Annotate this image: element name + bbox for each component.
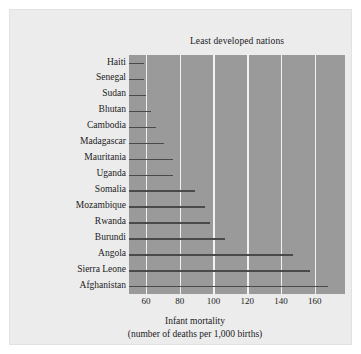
category-label-uganda: Uganda <box>18 168 126 178</box>
bar-uganda <box>129 175 173 176</box>
plot-area <box>129 55 345 294</box>
tick-mark-60 <box>146 288 147 294</box>
bar-senegal <box>129 79 144 80</box>
gridline-80 <box>180 55 181 294</box>
category-axis-labels: HaitiSenegalSudanBhutanCambodiaMadagasca… <box>18 55 126 294</box>
bar-burundi <box>129 238 225 239</box>
figure: Least developed nations HaitiSenegalSuda… <box>0 0 361 354</box>
bar-cambodia <box>129 127 156 128</box>
value-axis-ticks: 6080100120140160 <box>129 294 345 310</box>
category-label-bhutan: Bhutan <box>18 104 126 114</box>
tick-mark-160 <box>315 288 316 294</box>
bar-rwanda <box>129 222 210 223</box>
gridline-120 <box>247 55 248 294</box>
gridline-140 <box>281 55 282 294</box>
value-axis-title-sub: (number of deaths per 1,000 births) <box>70 328 320 341</box>
category-label-sudan: Sudan <box>18 88 126 98</box>
tick-label-80: 80 <box>175 296 184 306</box>
bar-haiti <box>129 63 144 64</box>
gridline-160 <box>315 55 316 294</box>
tick-label-140: 140 <box>274 296 288 306</box>
tick-mark-120 <box>247 288 248 294</box>
bar-mozambique <box>129 206 205 207</box>
tick-label-60: 60 <box>141 296 150 306</box>
bar-sudan <box>129 95 146 96</box>
gridline-100 <box>213 55 214 294</box>
category-label-afghanistan: Afghanistan <box>18 280 126 290</box>
bar-somalia <box>129 190 195 191</box>
tick-label-160: 160 <box>308 296 322 306</box>
category-label-angola: Angola <box>18 248 126 258</box>
category-label-burundi: Burundi <box>18 232 126 242</box>
tick-mark-80 <box>180 288 181 294</box>
category-label-senegal: Senegal <box>18 72 126 82</box>
category-label-madagascar: Madagascar <box>18 136 126 146</box>
category-label-rwanda: Rwanda <box>18 216 126 226</box>
category-label-cambodia: Cambodia <box>18 120 126 130</box>
tick-mark-140 <box>281 288 282 294</box>
tick-label-120: 120 <box>240 296 254 306</box>
bar-bhutan <box>129 111 151 112</box>
category-label-haiti: Haiti <box>18 57 126 67</box>
tick-label-100: 100 <box>207 296 221 306</box>
bar-mauritania <box>129 159 173 160</box>
bar-sierra-leone <box>129 270 310 271</box>
value-axis-title: Infant mortality (number of deaths per 1… <box>70 315 320 341</box>
chart-title: Least developed nations <box>129 36 345 46</box>
tick-mark-100 <box>213 288 214 294</box>
category-label-mauritania: Mauritania <box>18 152 126 162</box>
bar-madagascar <box>129 143 164 144</box>
category-label-somalia: Somalia <box>18 184 126 194</box>
value-axis-title-main: Infant mortality <box>70 315 320 328</box>
category-label-mozambique: Mozambique <box>18 200 126 210</box>
figure-panel: Least developed nations HaitiSenegalSuda… <box>9 9 352 345</box>
category-label-sierra-leone: Sierra Leone <box>18 264 126 274</box>
bar-afghanistan <box>129 286 328 287</box>
bar-angola <box>129 254 293 255</box>
